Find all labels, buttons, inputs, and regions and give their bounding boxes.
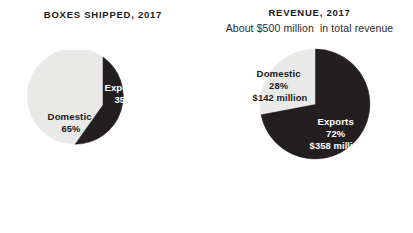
chart-panel-revenue: REVENUE, 2017 About $500 million in tota… [206, 0, 413, 233]
pie-label-exports-name: Exports [317, 116, 353, 127]
pie-label-exports-percent: 72% [326, 128, 346, 139]
chart-panel-boxes-shipped: BOXES SHIPPED, 2017 Exports 35% Domestic… [0, 0, 206, 233]
pie-chart-boxes-shipped: Exports 35% Domestic 65% [0, 50, 206, 160]
pie-svg-boxes-shipped: Exports 35% Domestic 65% [23, 50, 183, 160]
chart-title-boxes-shipped: BOXES SHIPPED, 2017 [0, 9, 206, 20]
pie-label-domestic-name: Domestic [256, 68, 301, 79]
pie-chart-revenue: Domestic 28% $142 million Exports 72% $3… [206, 47, 413, 172]
pie-label-exports-percent: 35% [114, 94, 134, 105]
pie-label-exports-value: $358 million [309, 140, 364, 151]
pie-label-domestic-percent: 28% [269, 80, 289, 91]
pie-svg-revenue: Domestic 28% $142 million Exports 72% $3… [220, 47, 400, 172]
pie-label-domestic-value: $142 million [252, 92, 307, 103]
pie-charts-figure: BOXES SHIPPED, 2017 Exports 35% Domestic… [0, 0, 413, 233]
pie-label-domestic-name: Domestic [48, 111, 93, 122]
chart-subtitle-revenue: About $500 million in total revenue [206, 22, 413, 35]
pie-label-domestic-percent: 65% [61, 123, 81, 134]
pie-label-exports-name: Exports [104, 82, 140, 93]
chart-title-revenue: REVENUE, 2017 [206, 7, 413, 18]
